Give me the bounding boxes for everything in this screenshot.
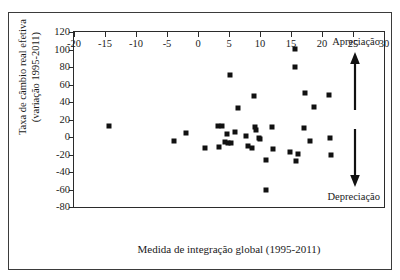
scatter-point	[227, 72, 232, 77]
y-tick-label: 40	[60, 97, 71, 108]
scatter-point	[183, 130, 188, 135]
scatter-point	[254, 128, 259, 133]
scatter-point	[329, 152, 334, 157]
y-tick-label: 0	[65, 132, 70, 143]
scatter-point	[292, 46, 297, 51]
scatter-point	[107, 123, 112, 128]
scatter-point	[217, 144, 222, 149]
annotation-depreciacao: Depreciação	[328, 192, 380, 203]
scatter-point	[228, 141, 233, 146]
scatter-point	[252, 93, 257, 98]
scatter-point	[269, 124, 274, 129]
scatter-point	[225, 131, 230, 136]
scatter-point	[258, 136, 263, 141]
scatter-point	[203, 145, 208, 150]
y-tick-label: 60	[60, 79, 71, 90]
scatter-point	[264, 187, 269, 192]
down-arrow-icon	[348, 129, 362, 187]
annotation-apreciacao: Apreciação	[332, 37, 380, 48]
y-tick-label: -20	[56, 149, 70, 160]
y-tick-label: -40	[56, 167, 70, 178]
scatter-point	[171, 139, 176, 144]
scatter-point	[232, 129, 237, 134]
scatter-point	[308, 139, 313, 144]
y-axis-title: Taxa de câmbio real efetiva (variação 19…	[16, 2, 42, 152]
y-tick-label: -60	[56, 184, 70, 195]
y-tick-label: 120	[54, 27, 70, 38]
scatter-point	[328, 135, 333, 140]
y-tick-label: -80	[56, 202, 70, 213]
scatter-points-layer	[74, 32, 384, 207]
scatter-point	[235, 106, 240, 111]
plot-area: -80-60-40-20020406080100120-20-15-10-505…	[73, 31, 385, 208]
scatter-point	[220, 123, 225, 128]
scatter-point	[263, 157, 268, 162]
y-tick-label: 20	[60, 114, 71, 125]
scatter-point	[271, 147, 276, 152]
scatter-point	[311, 105, 316, 110]
y-tick-label: 80	[60, 62, 71, 73]
x-axis-title: Medida de integração global (1995-2011)	[73, 243, 385, 255]
scatter-point	[303, 91, 308, 96]
scatter-point	[293, 158, 298, 163]
scatter-point	[249, 146, 254, 151]
scatter-point	[296, 151, 301, 156]
y-axis-title-line2: (variação 1995-2011)	[29, 2, 42, 152]
scatter-point	[326, 93, 331, 98]
x-tick-mark	[384, 32, 385, 37]
up-arrow-icon	[348, 52, 362, 110]
scatter-point	[244, 134, 249, 139]
figure: Taxa de câmbio real efetiva (variação 19…	[0, 0, 400, 280]
scatter-point	[293, 65, 298, 70]
scatter-point	[302, 126, 307, 131]
scatter-point	[288, 149, 293, 154]
y-axis-title-line1: Taxa de câmbio real efetiva	[16, 2, 29, 152]
